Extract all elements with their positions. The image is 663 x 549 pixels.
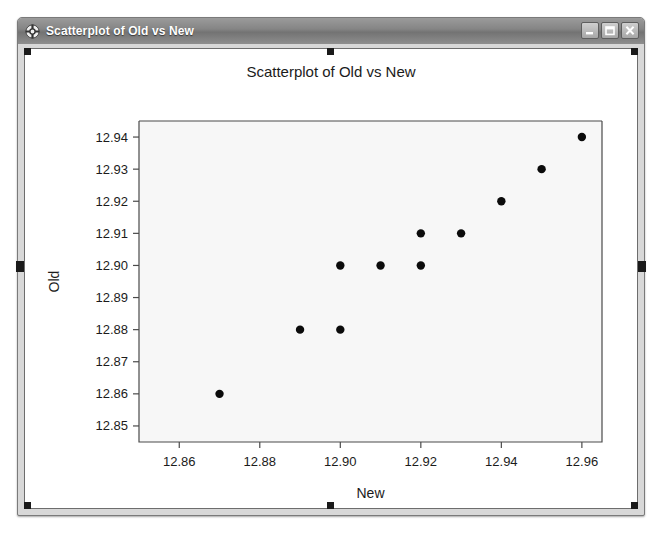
x-tick-label: 12.90 — [324, 454, 357, 469]
y-axis-label: Old — [46, 271, 62, 293]
window-title-bar[interactable]: Scatterplot of Old vs New — [18, 18, 644, 44]
resize-handle-right[interactable] — [638, 261, 646, 272]
data-point — [537, 165, 545, 173]
data-point — [215, 390, 223, 398]
y-tick-label: 12.92 — [95, 194, 128, 209]
plot-area-background — [139, 121, 602, 442]
x-tick-label: 12.88 — [244, 454, 277, 469]
y-tick-label: 12.85 — [95, 418, 128, 433]
y-tick-label: 12.90 — [95, 258, 128, 273]
y-tick-label: 12.89 — [95, 290, 128, 305]
x-tick-label: 12.86 — [163, 454, 196, 469]
resize-handle-left[interactable] — [16, 261, 24, 272]
y-tick-label: 12.91 — [95, 226, 128, 241]
data-point — [336, 261, 344, 269]
scatterplot: Scatterplot of Old vs New 12.8512.8612.8… — [25, 49, 637, 508]
x-tick-label: 12.96 — [566, 454, 599, 469]
y-tick-label: 12.94 — [95, 130, 128, 145]
y-tick-label: 12.88 — [95, 322, 128, 337]
data-point — [336, 325, 344, 333]
maximize-button[interactable] — [601, 22, 619, 39]
data-point — [578, 133, 586, 141]
data-point — [296, 325, 304, 333]
x-axis-label: New — [356, 485, 385, 501]
scatter-plot-svg: 12.8512.8612.8712.8812.8912.9012.9112.92… — [25, 49, 639, 514]
y-tick-label: 12.86 — [95, 386, 128, 401]
data-point — [417, 229, 425, 237]
data-point — [376, 261, 384, 269]
y-tick-label: 12.93 — [95, 162, 128, 177]
data-point — [417, 261, 425, 269]
window-title-text: Scatterplot of Old vs New — [46, 24, 194, 38]
data-point — [457, 229, 465, 237]
crosshair-window-icon — [25, 24, 40, 39]
x-tick-label: 12.92 — [405, 454, 438, 469]
close-button[interactable] — [621, 22, 639, 39]
y-tick-label: 12.87 — [95, 354, 128, 369]
graph-window: Scatterplot of Old vs New — [17, 17, 645, 516]
minimize-button[interactable] — [581, 22, 599, 39]
screenshot-root: Scatterplot of Old vs New — [0, 0, 663, 549]
window-controls — [581, 22, 639, 39]
x-tick-label: 12.94 — [485, 454, 518, 469]
graph-client-area[interactable]: Scatterplot of Old vs New 12.8512.8612.8… — [24, 48, 638, 509]
data-point — [497, 197, 505, 205]
